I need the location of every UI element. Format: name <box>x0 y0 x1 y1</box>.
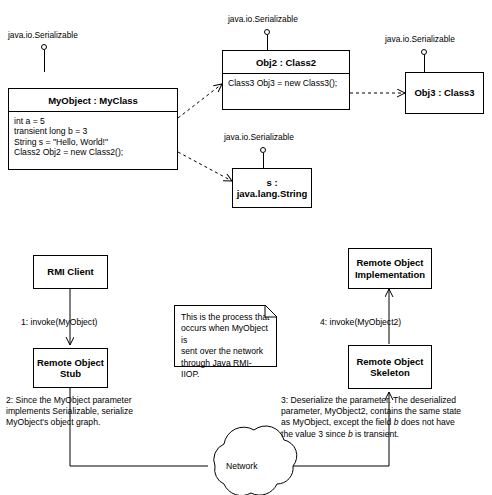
network-cloud-label: Network <box>226 461 258 471</box>
flow-label-step3: 3: Deserialize the parameter. The deseri… <box>281 395 491 440</box>
diagram-canvas: java.io.Serializable MyObject : MyClass … <box>0 0 492 495</box>
flow-label-step4: 4: invoke(MyObject2) <box>320 317 401 327</box>
process-node-label: Remote Object Implementation <box>355 257 425 280</box>
process-node-remote-object-skeleton[interactable]: Remote Object Skeleton <box>348 345 432 389</box>
process-node-remote-object-implementation[interactable]: Remote Object Implementation <box>348 248 432 289</box>
step3-line3b: does not have <box>399 417 455 427</box>
step3-line1: 3: Deserialize the parameter. The deseri… <box>281 395 456 405</box>
process-node-label: Remote Object Skeleton <box>356 356 423 379</box>
step3-line3a: as MyObject, except the field <box>281 417 394 427</box>
step3-line2: parameter, MyObject2, contains the same … <box>281 406 461 416</box>
step3-line4a: the value 3 since <box>281 429 348 439</box>
step3-line4b: is transient. <box>353 429 399 439</box>
